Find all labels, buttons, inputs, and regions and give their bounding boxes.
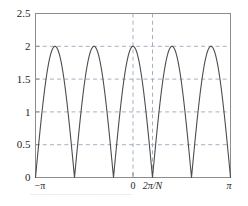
y-tick-label: 2.5 [17,7,31,19]
figure-container: 00.511.522.5 −π02π/Nπ —————————————— [0,0,248,206]
x-tick-label: −π [35,180,46,191]
chart-canvas: 00.511.522.5 −π02π/Nπ [0,0,248,206]
x-tick-label: 2π/N [143,180,164,191]
y-tick-label: 0.5 [17,138,31,150]
figure-caption: —————————————— [30,190,242,198]
y-tick-label: 1 [25,106,31,118]
x-tick-label: 0 [131,180,136,191]
y-tick-label: 0 [25,171,31,183]
y-tick-label: 2 [25,40,31,52]
y-tick-label: 1.5 [17,73,31,85]
chart-background [0,0,248,206]
